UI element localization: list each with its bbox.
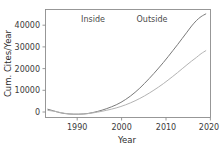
y-axis-title: Cum. Cites/Year	[3, 29, 13, 97]
annotation-inside: Inside	[81, 15, 105, 24]
y-tick-label: 20000	[15, 65, 40, 74]
x-axis-title: Year	[117, 135, 137, 145]
y-tick-label: 10000	[15, 86, 40, 95]
x-tick-label: 1990	[67, 123, 87, 132]
x-tick-label: 2000	[111, 123, 131, 132]
y-tick-label: 30000	[15, 43, 40, 52]
x-tick-label: 2020	[199, 123, 219, 132]
annotation-outside: Outside	[137, 15, 168, 24]
x-tick-label: 2010	[156, 123, 176, 132]
y-tick-label: 40000	[15, 21, 40, 30]
y-tick-label: 0	[35, 108, 40, 117]
chart-figure: 0 10000 20000 30000 40000 1990 2000 2010…	[0, 0, 221, 154]
chart-canvas: 0 10000 20000 30000 40000 1990 2000 2010…	[0, 0, 221, 154]
